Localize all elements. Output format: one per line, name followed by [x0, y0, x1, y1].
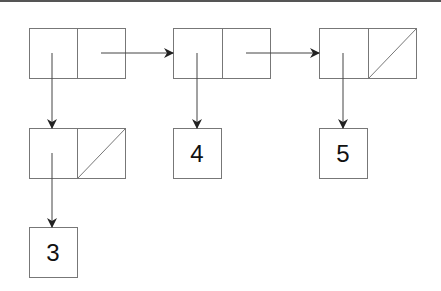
pair-4 — [30, 129, 126, 179]
null-slash — [78, 129, 126, 179]
atom-4-label: 4 — [190, 140, 203, 167]
pair-3 — [320, 29, 417, 79]
null-slash — [369, 29, 417, 79]
atom-3-label: 3 — [46, 239, 59, 266]
box-pointer-diagram: 4 5 3 — [0, 0, 441, 291]
atom-5-label: 5 — [336, 140, 349, 167]
